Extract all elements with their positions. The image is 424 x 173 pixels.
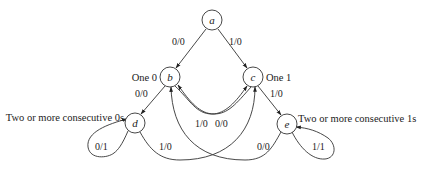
state-node-e: e (277, 114, 297, 134)
state-node-d: d (125, 113, 145, 133)
state-node-b: b (160, 67, 180, 87)
edge-label-b-d: 0/0 (135, 88, 148, 99)
edge-a-to-c (218, 29, 247, 68)
state-description-e: Two or more consecutive 1s (298, 113, 416, 124)
edge-label-d-c: 1/0 (159, 141, 172, 152)
state-diagram: 0/0 1/0 0/0 1/0 1/0 0/0 0/1 1/0 0/0 1/1 … (0, 0, 424, 173)
edge-c-to-b (178, 85, 251, 114)
edge-label-d-d: 0/1 (95, 141, 108, 152)
edge-label-a-b: 0/0 (172, 36, 185, 47)
edge-label-e-b: 0/0 (257, 141, 270, 152)
edge-label-c-e: 1/0 (270, 88, 283, 99)
state-label-d: d (132, 117, 138, 129)
edge-d-self-loop (88, 119, 128, 157)
edge-label-a-c: 1/0 (229, 36, 242, 47)
state-label-a: a (209, 14, 215, 26)
edge-b-to-c (175, 86, 247, 114)
edge-label-e-e: 1/1 (312, 141, 325, 152)
state-description-b: One 0 (132, 72, 157, 83)
edge-label-b-c: 1/0 (195, 118, 208, 129)
state-description-d: Two or more consecutive 0s (6, 112, 124, 123)
state-label-b: b (167, 71, 173, 83)
state-label-c: c (251, 71, 256, 83)
state-label-e: e (285, 118, 290, 130)
edge-a-to-b (176, 29, 206, 68)
edge-label-c-b: 0/0 (215, 118, 228, 129)
state-node-c: c (243, 67, 263, 87)
state-node-a: a (202, 10, 222, 30)
state-description-c: One 1 (266, 72, 291, 83)
